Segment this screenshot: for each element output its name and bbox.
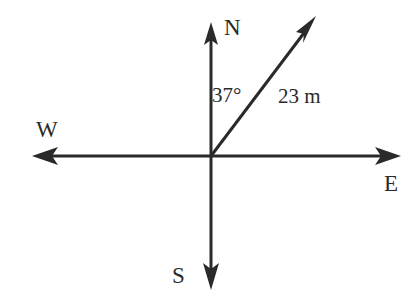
angle-measure-label: 37° [212,85,241,106]
west-direction-label: W [36,118,58,141]
magnitude-measure-label: 23 m [278,86,321,107]
east-direction-label: E [384,172,398,195]
south-direction-label: S [172,264,185,287]
north-direction-label: N [224,16,241,39]
diagram-canvas [0,0,416,301]
vector-diagram: N W E S 37° 23 m [0,0,416,301]
